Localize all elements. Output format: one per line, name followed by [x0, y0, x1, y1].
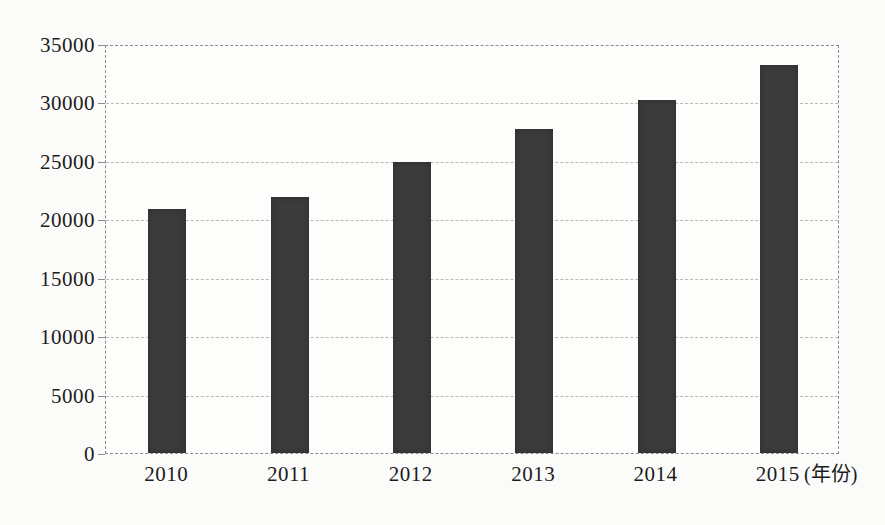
y-tick-mark — [98, 162, 105, 163]
x-tick-label: 2011 — [229, 461, 349, 487]
gridline — [106, 103, 838, 104]
y-tick-label: 35000 — [0, 33, 95, 57]
y-tick-label: 25000 — [0, 150, 95, 174]
gridline — [106, 396, 838, 397]
y-tick-label: 20000 — [0, 208, 95, 232]
bar-2014 — [638, 100, 676, 453]
x-tick-label: 2013 — [473, 461, 593, 487]
bar-2012 — [393, 162, 431, 453]
bar-2011 — [271, 197, 309, 453]
y-tick-mark — [98, 337, 105, 338]
y-tick-mark — [98, 103, 105, 104]
bar-2015 — [760, 65, 798, 453]
x-tick-label: 2010 — [106, 461, 226, 487]
y-tick-mark — [98, 454, 105, 455]
y-tick-mark — [98, 220, 105, 221]
bar-2010 — [148, 209, 186, 453]
y-tick-mark — [98, 45, 105, 46]
y-tick-label: 10000 — [0, 325, 95, 349]
y-tick-label: 0 — [0, 442, 95, 466]
y-tick-mark — [98, 279, 105, 280]
plot-area — [105, 45, 839, 454]
gridline — [106, 220, 838, 221]
gridline — [106, 337, 838, 338]
y-tick-label: 30000 — [0, 91, 95, 115]
y-tick-label: 15000 — [0, 267, 95, 291]
y-tick-mark — [98, 396, 105, 397]
x-tick-label: 2012 — [351, 461, 471, 487]
bar-chart-figure: 05000100001500020000250003000035000 2010… — [0, 0, 885, 525]
gridline — [106, 279, 838, 280]
x-axis-unit-label: (年份) — [804, 461, 857, 487]
y-tick-label: 5000 — [0, 384, 95, 408]
gridline — [106, 162, 838, 163]
x-tick-label: 2014 — [596, 461, 716, 487]
bar-2013 — [515, 129, 553, 453]
